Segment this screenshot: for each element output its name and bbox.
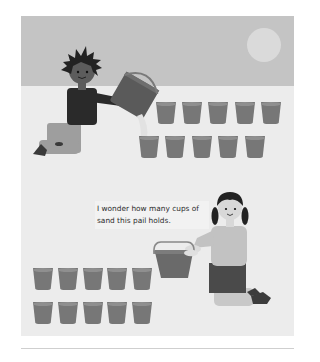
cup: [83, 268, 103, 290]
divider: [21, 348, 294, 349]
cup: [33, 268, 53, 290]
cup: [132, 268, 152, 290]
cup: [58, 268, 78, 290]
cup: [107, 268, 127, 290]
cup: [132, 302, 152, 324]
cup: [107, 302, 127, 324]
cup: [83, 302, 103, 324]
cup: [58, 302, 78, 324]
illustration-card: I wonder how many cups of sand this pail…: [21, 16, 294, 336]
cup: [33, 302, 53, 324]
